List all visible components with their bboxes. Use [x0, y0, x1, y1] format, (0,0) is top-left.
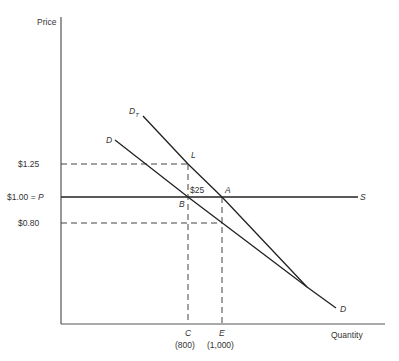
point-label-c: C: [185, 329, 191, 338]
curve-label-dt-sub: T: [135, 112, 139, 118]
curve-label-d-bottom: D: [340, 305, 346, 314]
curve-label-s: S: [360, 193, 366, 202]
y-axis-label: Price: [37, 18, 56, 27]
quantity-label-e: (1,000): [207, 341, 234, 350]
quantity-label-c: (800): [175, 341, 195, 350]
curve-label-d-top: D: [106, 136, 112, 145]
curve-label-dt: DT: [129, 107, 139, 118]
price-label-100-var: P: [38, 192, 44, 202]
price-label-100: $1.00 = P: [7, 193, 44, 202]
point-label-e: E: [219, 329, 225, 338]
price-label-100-text: $1.00 =: [7, 192, 38, 202]
point-label-a: A: [225, 186, 231, 195]
area-label: $25: [190, 186, 204, 195]
demand-curve-dt: [143, 116, 307, 287]
price-label-080: $0.80: [18, 219, 39, 228]
price-label-125: $1.25: [18, 160, 39, 169]
point-label-l: L: [191, 151, 196, 160]
x-axis-label: Quantity: [331, 331, 363, 340]
point-label-b: B: [179, 200, 185, 209]
